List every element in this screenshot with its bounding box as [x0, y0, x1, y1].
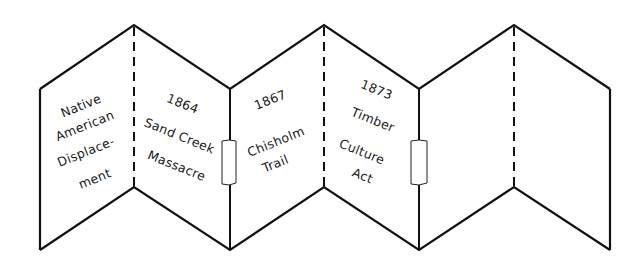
- tab-connector-1: [222, 140, 236, 185]
- bottom-edge: [40, 187, 610, 250]
- accordion-foldable-diagram: Native American Displace- ment 1864 Sand…: [0, 0, 638, 271]
- panel-6-blank: [520, 95, 605, 185]
- panel-5-blank: [425, 95, 510, 185]
